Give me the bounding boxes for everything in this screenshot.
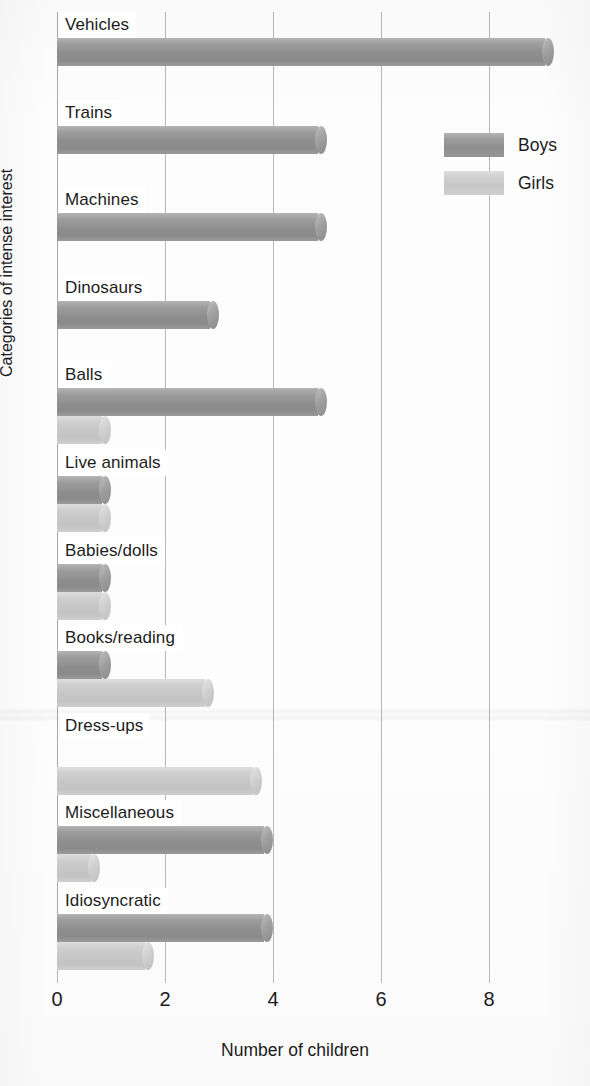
- bar-body: [57, 388, 318, 416]
- bar-end-cap: [315, 213, 327, 241]
- x-tick-mark-6: [381, 963, 382, 983]
- category-label: Vehicles: [60, 12, 136, 38]
- bar-body: [57, 592, 102, 620]
- category-label: Idiosyncratic: [60, 888, 168, 914]
- chart-row: Vehicles: [57, 12, 590, 100]
- chart-row: Miscellaneous: [57, 800, 590, 888]
- bar-girls: [57, 767, 262, 795]
- bar-body: [57, 504, 102, 532]
- x-axis-title: Number of children: [0, 1040, 590, 1061]
- x-tick-label-6: 6: [375, 988, 386, 1011]
- x-tick-label-2: 2: [159, 988, 170, 1011]
- bar-end-cap: [207, 301, 219, 329]
- bar-body: [57, 564, 102, 592]
- bar-girls: [57, 942, 154, 970]
- bar-body: [57, 767, 253, 795]
- bar-body: [57, 416, 102, 444]
- bar-chart-figure: VehiclesTrainsMachinesDinosaursBallsLive…: [0, 0, 590, 1086]
- bar-end-cap: [250, 767, 262, 795]
- legend-swatch-girls-icon: [444, 171, 504, 195]
- bar-boys: [57, 388, 327, 416]
- bar-boys: [57, 914, 273, 942]
- bar-end-cap: [542, 38, 554, 66]
- bar-girls: [57, 416, 111, 444]
- bar-boys: [57, 38, 554, 66]
- chart-row: Dress-ups: [57, 713, 590, 801]
- category-label: Balls: [60, 362, 109, 388]
- bar-body: [57, 854, 91, 882]
- bar-body: [57, 476, 102, 504]
- bar-body: [57, 914, 264, 942]
- bar-body: [57, 826, 264, 854]
- x-tick-label-8: 8: [483, 988, 494, 1011]
- chart-legend: Boys Girls: [444, 132, 557, 208]
- category-label: Live animals: [60, 450, 168, 476]
- bar-body: [57, 942, 145, 970]
- y-axis-title: Categories of intense interest: [0, 57, 16, 377]
- bar-end-cap: [315, 126, 327, 154]
- x-tick-label-0: 0: [51, 988, 62, 1011]
- bar-end-cap: [99, 416, 111, 444]
- bar-end-cap: [202, 679, 214, 707]
- category-label: Machines: [60, 187, 146, 213]
- bar-girls: [57, 504, 111, 532]
- bar-end-cap: [142, 942, 154, 970]
- bar-body: [57, 679, 205, 707]
- chart-row: Live animals: [57, 450, 590, 538]
- x-tick-mark-4: [273, 963, 274, 983]
- legend-swatch-boys-icon: [444, 133, 504, 157]
- bar-end-cap: [99, 476, 111, 504]
- chart-row: Idiosyncratic: [57, 888, 590, 976]
- bar-end-cap: [261, 914, 273, 942]
- legend-label-boys: Boys: [518, 135, 557, 156]
- bar-girls: [57, 679, 214, 707]
- category-label: Trains: [60, 100, 119, 126]
- bar-end-cap: [88, 854, 100, 882]
- chart-row: Books/reading: [57, 625, 590, 713]
- category-label: Books/reading: [60, 625, 182, 651]
- chart-row: Babies/dolls: [57, 538, 590, 626]
- bar-end-cap: [99, 504, 111, 532]
- bar-boys: [57, 476, 111, 504]
- bar-boys: [57, 301, 219, 329]
- bar-body: [57, 301, 210, 329]
- category-label: Dress-ups: [60, 713, 150, 739]
- bar-body: [57, 38, 545, 66]
- bar-boys: [57, 651, 111, 679]
- bar-girls: [57, 854, 100, 882]
- bar-end-cap: [99, 564, 111, 592]
- bar-boys: [57, 213, 327, 241]
- legend-item-girls: Girls: [444, 170, 557, 196]
- chart-row: Dinosaurs: [57, 275, 590, 363]
- bar-boys: [57, 564, 111, 592]
- bar-end-cap: [99, 651, 111, 679]
- bar-girls: [57, 592, 111, 620]
- bar-end-cap: [315, 388, 327, 416]
- bar-body: [57, 213, 318, 241]
- bar-body: [57, 651, 102, 679]
- bar-end-cap: [99, 592, 111, 620]
- legend-label-girls: Girls: [518, 173, 554, 194]
- legend-item-boys: Boys: [444, 132, 557, 158]
- bar-end-cap: [261, 826, 273, 854]
- category-label: Babies/dolls: [60, 538, 165, 564]
- bar-boys: [57, 126, 327, 154]
- bar-boys: [57, 826, 273, 854]
- chart-row: Balls: [57, 362, 590, 450]
- category-label: Dinosaurs: [60, 275, 149, 301]
- x-tick-mark-8: [489, 963, 490, 983]
- category-label: Miscellaneous: [60, 800, 181, 826]
- bar-body: [57, 126, 318, 154]
- x-tick-label-4: 4: [267, 988, 278, 1011]
- x-tick-mark-2: [165, 963, 166, 983]
